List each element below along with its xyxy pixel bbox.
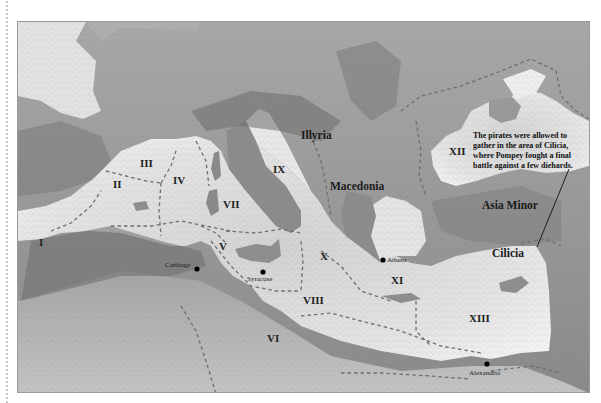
region-label-v: V bbox=[219, 240, 227, 252]
region-label-ix: IX bbox=[273, 163, 285, 175]
place-label-illyria: Illyria bbox=[301, 129, 332, 142]
region-label-vii: VII bbox=[223, 198, 240, 210]
region-label-xii: XII bbox=[449, 145, 466, 157]
city-label-syracuse: Syracuse bbox=[247, 275, 272, 283]
region-label-viii: VIII bbox=[303, 294, 324, 306]
map-frame: I II III IV V VI VII VIII IX X XI XII XI… bbox=[17, 21, 590, 393]
region-label-x: X bbox=[320, 250, 328, 262]
city-dot-athens bbox=[380, 257, 385, 262]
region-label-iii: III bbox=[140, 157, 153, 169]
city-label-athens: Athens bbox=[387, 256, 407, 264]
city-dot-carthage bbox=[194, 266, 199, 271]
region-label-xiii: XIII bbox=[469, 312, 490, 324]
region-label-xi: XI bbox=[391, 274, 403, 286]
place-label-cilicia: Cilicia bbox=[492, 247, 524, 259]
page-margin-dotted-rule bbox=[6, 0, 8, 403]
region-label-ii: II bbox=[113, 178, 122, 190]
city-label-carthage: Carthage bbox=[165, 261, 190, 269]
mediterranean-map: I II III IV V VI VII VIII IX X XI XII XI… bbox=[18, 22, 590, 393]
city-dot-alexandria bbox=[484, 361, 489, 366]
place-label-asia-minor: Asia Minor bbox=[482, 199, 538, 211]
region-label-iv: IV bbox=[173, 174, 185, 186]
city-label-alexandria: Alexandria bbox=[469, 369, 501, 377]
place-label-macedonia: Macedonia bbox=[330, 180, 385, 192]
annotation-line-3: where Pompey fought a final bbox=[473, 151, 572, 160]
city-dot-syracuse bbox=[260, 269, 265, 274]
annotation-line-2: gather in the area of Cilicia, bbox=[473, 141, 568, 150]
annotation-line-1: The pirates were allowed to bbox=[473, 131, 567, 140]
region-label-i: I bbox=[39, 236, 43, 248]
region-label-vi: VI bbox=[267, 332, 279, 344]
annotation-line-4: battle against a few diehards. bbox=[473, 161, 573, 170]
